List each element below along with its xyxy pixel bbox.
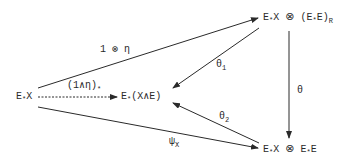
- node-top-right-b-star: *: [313, 16, 317, 24]
- label-theta-2: θ2: [219, 111, 229, 123]
- label-1-smash-eta-star: (1∧η)*: [67, 80, 101, 92]
- node-bottom-right-a-star: *: [269, 148, 273, 156]
- label-theta-text: θ: [297, 85, 303, 96]
- node-top-right-b-open: (E: [300, 12, 312, 23]
- node-top-right-b-rest: E): [317, 12, 329, 23]
- node-E-X-smash-E: E*(X∧E): [121, 91, 161, 103]
- arrow-1-otimes-eta: [38, 18, 258, 88]
- label-theta-2-sub: 2: [225, 116, 229, 124]
- label-psi-x: ψX: [169, 136, 179, 148]
- node-bottom-right-b-base: E: [300, 144, 306, 155]
- node-top-right-a-rest: X: [273, 12, 279, 23]
- node-top-right: E*X ⊗ (E*E)R: [263, 11, 333, 24]
- commutative-diagram: E*X E*(X∧E) E*X ⊗ (E*E)R E*X ⊗ E*E 1 ⊗ η…: [0, 0, 349, 165]
- label-1-smash-eta-sub: *: [97, 85, 101, 93]
- arrow-theta-2: [173, 103, 259, 143]
- otimes-symbol: ⊗: [285, 10, 294, 23]
- arrow-theta-1: [173, 28, 259, 88]
- node-E-X-smash-E-rest: (X∧E): [131, 91, 161, 102]
- node-bottom-right-b-rest: E: [311, 144, 317, 155]
- label-psi-sub: X: [175, 141, 179, 149]
- label-theta-1: θ1: [216, 59, 226, 71]
- label-1-smash-eta-main: (1∧η): [67, 80, 97, 91]
- node-ExX-rest: X: [26, 91, 32, 102]
- label-1-otimes-eta: 1 ⊗ η: [100, 44, 130, 56]
- node-bottom-right-b-star: *: [307, 148, 311, 156]
- otimes-symbol: ⊗: [285, 142, 294, 155]
- node-top-right-a-star: *: [269, 16, 273, 24]
- node-E-X-smash-E-star: *: [127, 95, 131, 103]
- label-1-otimes-eta-text: 1 ⊗ η: [100, 44, 130, 55]
- node-ExX: E*X: [16, 91, 32, 103]
- label-theta-1-sub: 1: [222, 64, 226, 72]
- node-top-right-subscript: R: [329, 17, 333, 25]
- node-bottom-right: E*X ⊗ E*E: [263, 143, 317, 156]
- node-ExX-star: *: [22, 95, 26, 103]
- node-bottom-right-a-rest: X: [273, 144, 279, 155]
- label-theta: θ: [297, 85, 303, 97]
